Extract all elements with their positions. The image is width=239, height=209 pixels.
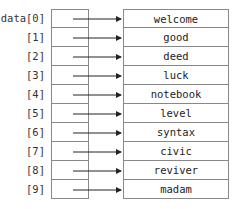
arrows-layer: [0, 0, 239, 209]
